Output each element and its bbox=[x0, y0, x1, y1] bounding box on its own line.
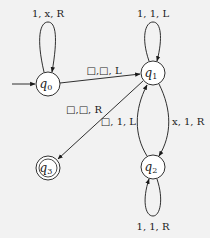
edge-q1-q1 bbox=[145, 22, 161, 61]
edge-q0-q0 bbox=[40, 22, 56, 72]
edge-q1-q2 bbox=[159, 84, 169, 156]
state-q0: q0 bbox=[36, 72, 60, 96]
edge-label-q0-q0: 1, x, R bbox=[32, 8, 65, 19]
state-q3-accept: q3 bbox=[36, 156, 60, 180]
state-q1: q1 bbox=[141, 61, 165, 85]
edge-label-q1-q2: x, 1, R bbox=[172, 116, 205, 127]
edge-q2-q1 bbox=[137, 85, 147, 156]
edge-label-q0-q1: □,□, L bbox=[86, 65, 121, 76]
state-q2: q2 bbox=[141, 155, 165, 179]
edge-label-q2-q2: 1, 1, R bbox=[137, 221, 170, 232]
turing-machine-diagram: 1, x, R □,□, L 1, 1, L □,□, R x, 1, R □,… bbox=[0, 0, 210, 238]
edge-label-q1-q3: □,□, R bbox=[66, 104, 102, 115]
edge-q2-q2 bbox=[145, 179, 161, 216]
edge-label-q2-q1: □, 1, L bbox=[101, 116, 137, 127]
edge-label-q1-q1: 1, 1, L bbox=[137, 8, 169, 19]
